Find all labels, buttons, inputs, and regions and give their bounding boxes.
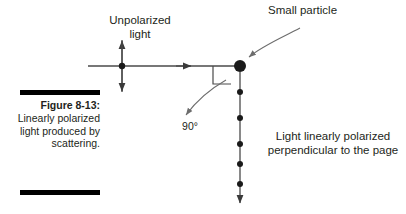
polarization-dot	[237, 89, 243, 95]
small-particle-pointer	[249, 28, 300, 57]
right-angle-marker	[213, 66, 231, 84]
figure-caption: Figure 8-13: Linearly polarized light pr…	[8, 99, 100, 150]
figure-caption-title: Figure 8-13:	[40, 99, 100, 111]
label-small-particle: Small particle	[268, 4, 400, 18]
polarization-dot	[237, 181, 243, 187]
unpolarized-field-dot	[119, 63, 125, 69]
label-ninety-degrees: 90°	[170, 120, 210, 132]
label-unpolarized-light: Unpolarized light	[96, 14, 184, 41]
caption-rule-top	[20, 90, 100, 95]
polarization-dot	[237, 161, 243, 167]
polarization-dot	[237, 115, 243, 121]
caption-rule-bottom	[20, 190, 100, 195]
polarization-dot	[237, 141, 243, 147]
scattering-particle	[234, 60, 246, 72]
label-polarized-note: Light linearly polarized perpendicular t…	[262, 130, 404, 157]
figure-caption-body: Linearly polarized light produced by sca…	[18, 112, 100, 150]
figure-8-13: Unpolarized light Small particle 90° Lig…	[0, 0, 406, 214]
angle-pointer	[186, 80, 226, 115]
